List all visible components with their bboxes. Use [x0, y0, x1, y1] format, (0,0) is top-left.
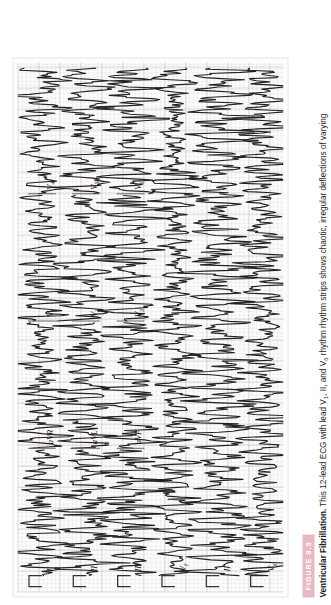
calibration-pulse — [28, 575, 41, 586]
calibration-pulse — [161, 575, 174, 586]
ecg-traces: IaVRV1V4IIaVLV2V5IIIaVFV3V6V1IIV6 — [17, 62, 283, 592]
ecg-figure-image: IaVRV1V4IIaVLV2V5IIIaVFV3V6V1IIV6 — [12, 57, 288, 597]
calibration-pulse — [117, 575, 130, 586]
lead-label: II — [222, 564, 232, 572]
lead-label: V6 — [133, 181, 144, 189]
lead-label: V2 — [89, 308, 100, 316]
calibration-pulse — [73, 575, 86, 586]
figure-caption-title: Ventricular Fibrillation. — [318, 508, 327, 597]
lead-label: V3 — [133, 308, 144, 316]
figure-caption-block: FIGURE 8.9 Ventricular Fibrillation. Thi… — [296, 57, 331, 597]
figure-number-badge: FIGURE 8.9 — [302, 534, 314, 597]
ecg-trace — [17, 195, 77, 321]
ecg-trace — [96, 195, 173, 321]
lead-label: V1 — [177, 563, 188, 571]
ecg-trace — [17, 322, 73, 448]
ecg-grid-paper: IaVRV1V4IIaVLV2V5IIIaVFV3V6V1IIV6 — [17, 62, 283, 592]
lead-label: aVF — [133, 428, 143, 443]
calibration-pulse — [250, 575, 263, 586]
lead-label: aVR — [44, 428, 54, 443]
lead-label: V6 — [266, 563, 277, 571]
rotated-figure-stage: IaVRV1V4IIaVLV2V5IIIaVFV3V6V1IIV6 FIGURE… — [0, 0, 331, 605]
figure-page: IaVRV1V4IIaVLV2V5IIIaVFV3V6V1IIV6 FIGURE… — [0, 0, 331, 605]
lead-label: V5 — [89, 181, 100, 189]
ecg-trace — [144, 68, 202, 575]
ecg-trace — [17, 450, 76, 576]
lead-label: aVL — [89, 429, 99, 443]
ecg-trace — [52, 322, 116, 448]
calibration-pulse — [206, 575, 219, 586]
figure-caption-text: Ventricular Fibrillation. This 12-lead E… — [317, 97, 331, 597]
ecg-trace — [97, 450, 174, 576]
